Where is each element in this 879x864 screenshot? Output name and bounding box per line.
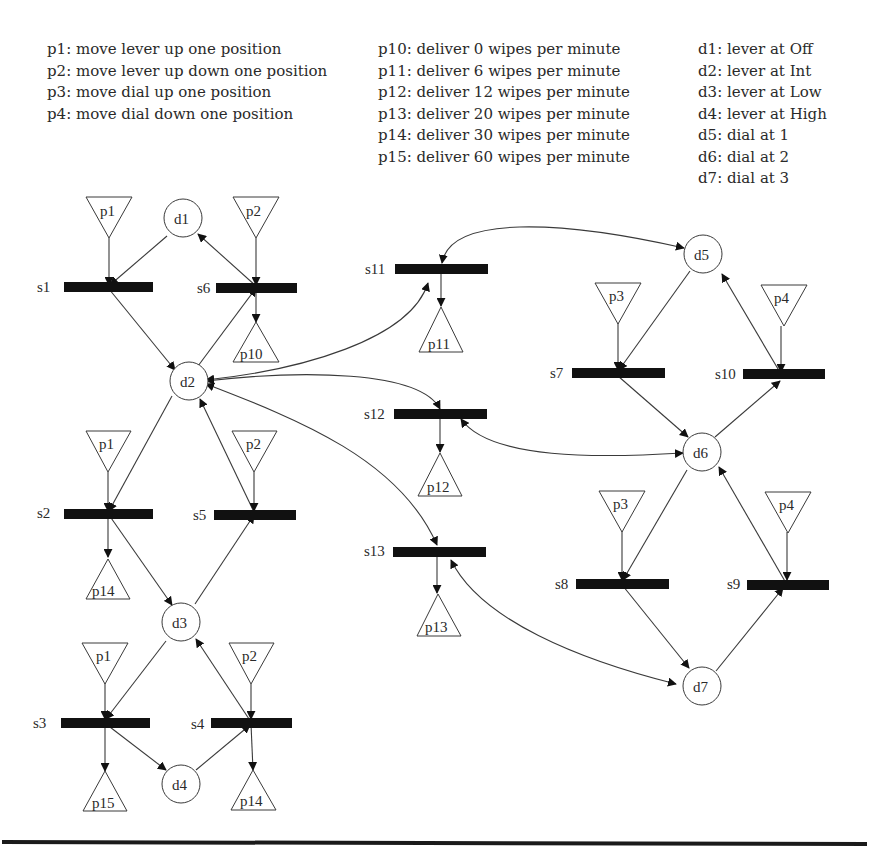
state-d1: d1 bbox=[164, 199, 202, 237]
svg-text:s12: s12 bbox=[364, 406, 385, 422]
svg-text:p15: p15 bbox=[92, 795, 115, 811]
transition-s11: s11 bbox=[365, 261, 488, 277]
svg-text:p3: p3 bbox=[609, 288, 624, 304]
place-p3-s8: p3 bbox=[599, 491, 645, 532]
place-p1-s1: p1 bbox=[86, 197, 132, 238]
svg-text:s9: s9 bbox=[727, 576, 740, 592]
svg-text:s13: s13 bbox=[364, 543, 385, 559]
svg-text:p12: p12 bbox=[427, 479, 450, 495]
svg-text:s5: s5 bbox=[193, 507, 206, 523]
svg-text:p1: p1 bbox=[100, 203, 115, 219]
svg-text:p2: p2 bbox=[246, 436, 261, 452]
svg-text:s1: s1 bbox=[37, 279, 50, 295]
transition-s8: s8 bbox=[555, 576, 669, 592]
transition-s1: s1 bbox=[37, 279, 153, 295]
place-p11: p11 bbox=[419, 307, 463, 352]
place-p15: p15 bbox=[83, 771, 127, 811]
petri-net-diagram: s1 s6 s2 s5 s3 s4 s11 s12 bbox=[0, 0, 879, 864]
svg-text:p3: p3 bbox=[613, 496, 628, 512]
svg-text:s6: s6 bbox=[197, 280, 211, 296]
svg-text:p14: p14 bbox=[92, 583, 115, 599]
svg-text:p11: p11 bbox=[428, 336, 450, 352]
transition-s2: s2 bbox=[37, 505, 153, 521]
edges-left bbox=[105, 234, 256, 771]
transition-s9: s9 bbox=[727, 576, 829, 592]
svg-text:d1: d1 bbox=[174, 211, 189, 227]
transition-s10: s10 bbox=[715, 366, 825, 382]
svg-text:d6: d6 bbox=[693, 445, 709, 461]
svg-text:d2: d2 bbox=[180, 374, 195, 390]
place-p13: p13 bbox=[417, 594, 461, 636]
place-p2-s4: p2 bbox=[229, 643, 274, 684]
svg-text:p14: p14 bbox=[240, 793, 263, 809]
place-p3-s7: p3 bbox=[595, 283, 641, 324]
svg-text:s7: s7 bbox=[550, 365, 564, 381]
svg-text:p4: p4 bbox=[774, 290, 790, 306]
svg-text:s10: s10 bbox=[715, 366, 736, 382]
svg-text:p1: p1 bbox=[99, 436, 114, 452]
state-d3: d3 bbox=[162, 603, 200, 641]
place-p1-s2: p1 bbox=[86, 431, 131, 472]
svg-text:p1: p1 bbox=[96, 648, 111, 664]
place-p2-s5: p2 bbox=[232, 431, 277, 472]
place-p14-s4: p14 bbox=[231, 770, 276, 810]
state-d6: d6 bbox=[683, 433, 721, 471]
state-d2: d2 bbox=[170, 362, 208, 400]
place-p4-s10: p4 bbox=[761, 285, 807, 326]
place-p2-s6: p2 bbox=[233, 197, 279, 238]
svg-text:p13: p13 bbox=[425, 619, 448, 635]
svg-text:s4: s4 bbox=[191, 716, 205, 732]
place-p12: p12 bbox=[418, 453, 462, 496]
svg-text:d5: d5 bbox=[694, 247, 709, 263]
transition-s13: s13 bbox=[364, 543, 486, 559]
svg-text:d7: d7 bbox=[693, 679, 709, 695]
transition-s12: s12 bbox=[364, 406, 487, 422]
transition-s7: s7 bbox=[550, 365, 665, 381]
svg-text:d3: d3 bbox=[172, 615, 187, 631]
place-p14-s2: p14 bbox=[86, 559, 130, 599]
state-d5: d5 bbox=[684, 235, 722, 273]
svg-text:d4: d4 bbox=[172, 777, 188, 793]
place-p10: p10 bbox=[233, 322, 279, 362]
svg-text:s8: s8 bbox=[555, 576, 568, 592]
state-d4: d4 bbox=[162, 765, 200, 803]
state-d7: d7 bbox=[683, 667, 721, 705]
svg-text:s11: s11 bbox=[365, 261, 385, 277]
place-p4-s9: p4 bbox=[765, 492, 811, 533]
transition-s6: s6 bbox=[197, 280, 297, 296]
transition-s5: s5 bbox=[193, 507, 296, 523]
transition-s3: s3 bbox=[33, 715, 150, 731]
svg-text:s3: s3 bbox=[33, 715, 46, 731]
transition-s4: s4 bbox=[191, 716, 292, 732]
svg-text:p4: p4 bbox=[779, 497, 795, 513]
svg-text:s2: s2 bbox=[37, 505, 50, 521]
place-p1-s3: p1 bbox=[82, 643, 128, 684]
svg-text:p2: p2 bbox=[242, 648, 257, 664]
svg-text:p10: p10 bbox=[240, 346, 263, 362]
svg-text:p2: p2 bbox=[246, 203, 261, 219]
